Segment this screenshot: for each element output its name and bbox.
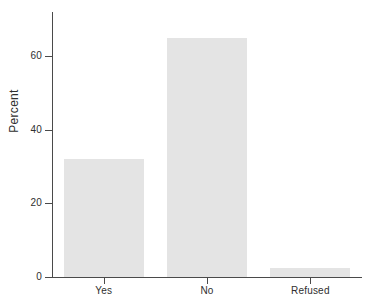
y-axis-tick-label: 20 [12,198,42,208]
y-axis-title: Percent [7,61,21,161]
y-axis-line [52,12,53,278]
y-axis-tick [45,203,52,204]
y-axis-tick-label: 60 [12,51,42,61]
x-axis-tick-label: No [162,286,252,296]
y-axis-tick-label: 0 [12,272,42,282]
x-axis-tick-label: Yes [59,286,149,296]
y-axis-tick-label: 40 [12,125,42,135]
y-axis-tick [45,130,52,131]
x-axis-tick [207,278,208,284]
bar-no [167,38,247,277]
y-axis-tick [45,56,52,57]
x-axis-tick-label: Refused [265,286,355,296]
bar-yes [64,159,144,277]
y-axis-tick [45,277,52,278]
bar-chart: Percent 0204060 YesNoRefused [0,0,374,302]
bar-refused [270,268,350,277]
x-axis-tick [104,278,105,284]
x-axis-tick [310,278,311,284]
